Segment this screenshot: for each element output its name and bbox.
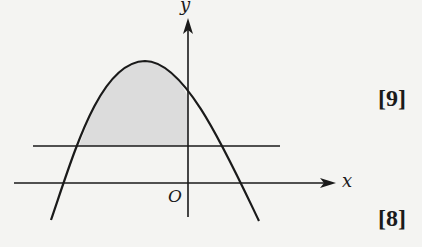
- y-axis-label: y: [180, 0, 190, 15]
- parabola-diagram: [0, 0, 422, 247]
- origin-label: O: [168, 186, 182, 206]
- marks-8: [8]: [378, 205, 406, 232]
- marks-9: [9]: [378, 85, 406, 112]
- x-axis-label: x: [342, 170, 352, 191]
